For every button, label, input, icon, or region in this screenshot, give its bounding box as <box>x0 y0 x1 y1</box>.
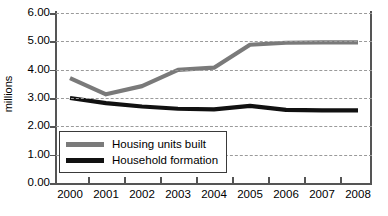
legend-item: Housing units built <box>66 136 218 152</box>
y-tick-mark <box>50 98 56 100</box>
legend-label: Housing units built <box>112 138 206 150</box>
x-tick-mark <box>124 177 126 184</box>
gridline <box>56 98 372 99</box>
y-tick-label: 4.00 <box>4 64 50 75</box>
x-tick-mark <box>88 177 90 184</box>
y-tick-label: 1.00 <box>4 149 50 160</box>
y-tick-mark <box>50 155 56 157</box>
legend-swatch <box>66 142 104 147</box>
gridline <box>56 13 372 14</box>
y-tick-label: 6.00 <box>4 7 50 18</box>
y-tick-label: 3.00 <box>4 92 50 103</box>
y-tick-mark <box>50 13 56 15</box>
series-line <box>70 42 358 94</box>
y-tick-mark <box>50 183 56 185</box>
gridline <box>56 126 372 127</box>
x-tick-label: 2008 <box>335 188 381 200</box>
y-tick-label: 0.00 <box>4 177 50 188</box>
x-axis-line <box>55 183 372 185</box>
y-tick-mark <box>50 70 56 72</box>
legend-item: Household formation <box>66 152 218 168</box>
series-line <box>70 98 358 110</box>
legend-label: Household formation <box>112 154 218 166</box>
y-tick-label: 5.00 <box>4 35 50 46</box>
line-chart: millions 0.001.002.003.004.005.006.00 20… <box>0 0 388 216</box>
legend-swatch <box>66 158 104 163</box>
x-tick-mark <box>232 177 234 184</box>
x-tick-mark <box>196 177 198 184</box>
x-tick-mark <box>304 177 306 184</box>
x-axis-tick-labels: 200020012002200320042005200620072008 <box>56 188 372 208</box>
x-tick-mark <box>268 177 270 184</box>
chart-legend: Housing units builtHousehold formation <box>59 131 227 173</box>
gridline <box>56 70 372 71</box>
x-tick-mark <box>340 177 342 184</box>
y-tick-mark <box>50 41 56 43</box>
gridline <box>56 41 372 42</box>
y-axis-tick-labels: 0.001.002.003.004.005.006.00 <box>0 0 50 216</box>
x-tick-mark <box>160 177 162 184</box>
y-tick-label: 2.00 <box>4 120 50 131</box>
y-tick-mark <box>50 126 56 128</box>
